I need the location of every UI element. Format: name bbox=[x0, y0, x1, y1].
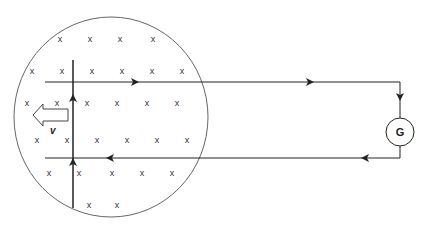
field-into-page-mark: x bbox=[82, 99, 92, 108]
field-into-page-mark: x bbox=[57, 67, 67, 76]
field-into-page-mark: x bbox=[32, 136, 42, 145]
field-into-page-mark: x bbox=[107, 169, 117, 178]
field-into-page-mark: x bbox=[112, 99, 122, 108]
field-into-page-mark: x bbox=[74, 169, 84, 178]
field-into-page-mark: x bbox=[147, 67, 157, 76]
field-into-page-mark: x bbox=[84, 201, 94, 210]
field-into-page-mark: x bbox=[87, 67, 97, 76]
field-into-page-mark: x bbox=[142, 99, 152, 108]
field-into-page-mark: x bbox=[27, 67, 37, 76]
field-into-page-mark: x bbox=[177, 67, 187, 76]
field-into-page-mark: x bbox=[112, 201, 122, 210]
field-into-page-mark: x bbox=[148, 35, 158, 44]
circuit-wires bbox=[45, 78, 404, 162]
velocity-arrow-icon bbox=[33, 104, 68, 126]
field-into-page-mark: x bbox=[122, 136, 132, 145]
field-into-page-mark: x bbox=[55, 35, 65, 44]
induction-diagram: xxxxxxxxxxxxxxxxxxxxxxxxxxxxx G v bbox=[0, 0, 424, 228]
field-into-page-mark: x bbox=[152, 136, 162, 145]
field-into-page-mark: x bbox=[117, 67, 127, 76]
field-into-page-mark: x bbox=[85, 35, 95, 44]
velocity-label: v bbox=[50, 125, 56, 136]
field-into-page-mark: x bbox=[137, 169, 147, 178]
field-into-page-mark: x bbox=[167, 169, 177, 178]
field-into-page-mark: x bbox=[22, 99, 32, 108]
field-into-page-mark: x bbox=[115, 35, 125, 44]
galvanometer-label: G bbox=[390, 126, 410, 138]
field-into-page-mark: x bbox=[62, 136, 72, 145]
field-into-page-mark: x bbox=[92, 136, 102, 145]
field-into-page-mark: x bbox=[44, 169, 54, 178]
field-into-page-mark: x bbox=[172, 99, 182, 108]
field-into-page-mark: x bbox=[52, 99, 62, 108]
field-into-page-mark: x bbox=[182, 136, 192, 145]
